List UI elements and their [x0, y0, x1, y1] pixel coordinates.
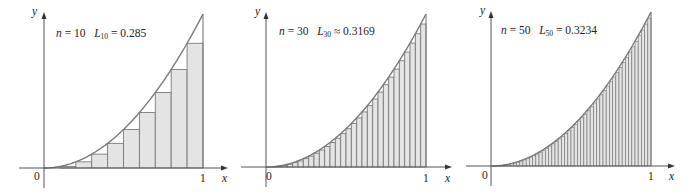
riemann-rect — [619, 67, 622, 166]
panel-1-L-sub: 10 — [101, 32, 109, 41]
panel-3-L-value: 0.3234 — [565, 24, 597, 36]
riemann-rect — [394, 69, 399, 167]
riemann-rect — [171, 69, 187, 168]
riemann-rect — [632, 47, 635, 166]
riemann-rect — [124, 130, 140, 169]
panel-3-n-value: 50 — [519, 24, 531, 36]
panel-3-L-sub: 50 — [546, 29, 554, 38]
riemann-rect — [622, 62, 625, 166]
riemann-rect — [293, 163, 298, 167]
riemann-rect — [616, 72, 619, 166]
panel-1-tick-0: 0 — [34, 170, 40, 182]
riemann-rect — [309, 156, 314, 167]
riemann-rect — [410, 43, 415, 167]
riemann-rect — [187, 43, 203, 168]
riemann-rect — [383, 85, 388, 167]
panel-2-L-value: 0.3169 — [343, 25, 375, 37]
riemann-rect — [539, 152, 542, 166]
riemann-rect — [625, 57, 628, 166]
x-axis-arrow-icon — [668, 164, 675, 169]
panel-1-L-value: 0.285 — [120, 27, 146, 39]
riemann-rect — [421, 24, 426, 167]
riemann-rect — [341, 134, 346, 167]
riemann-rect — [600, 95, 603, 166]
y-axis-arrow-icon — [42, 12, 47, 19]
riemann-rect — [533, 156, 536, 166]
riemann-rect — [561, 136, 564, 166]
panel-2-tick-0: 0 — [266, 170, 272, 182]
panel-3-x-label: x — [669, 170, 674, 182]
riemann-rect — [520, 161, 523, 166]
panel-1-x-label: x — [222, 172, 227, 184]
riemann-rect — [373, 99, 378, 167]
riemann-rect — [351, 123, 356, 167]
riemann-rect — [330, 143, 335, 167]
riemann-rect — [303, 159, 308, 167]
riemann-rect — [108, 143, 124, 168]
riemann-rect — [609, 82, 612, 166]
panel-3-tick-1: 1 — [648, 170, 654, 182]
riemann-rect — [526, 159, 529, 166]
riemann-rect — [346, 129, 351, 167]
panel-2-L-sub: 30 — [324, 30, 332, 39]
y-axis-arrow-icon — [264, 12, 269, 19]
panel-3-relation: = — [556, 24, 563, 36]
riemann-rect — [552, 144, 555, 166]
y-axis-arrow-icon — [489, 11, 494, 18]
riemann-rect — [597, 99, 600, 166]
riemann-rect — [565, 133, 568, 166]
riemann-rect — [577, 121, 580, 166]
riemann-rect — [545, 148, 548, 166]
riemann-rect — [367, 106, 372, 167]
riemann-rect — [549, 146, 552, 166]
riemann-rect — [638, 36, 641, 166]
riemann-rect — [571, 128, 574, 167]
riemann-rect — [536, 154, 539, 166]
panel-2-tick-1: 1 — [423, 172, 429, 184]
panel-1-tick-1: 1 — [200, 172, 206, 184]
riemann-rect — [378, 92, 383, 167]
riemann-rect — [590, 107, 593, 166]
riemann-rect — [629, 52, 632, 166]
riemann-rect — [584, 114, 587, 166]
riemann-rect — [139, 113, 155, 168]
riemann-rect — [641, 30, 644, 166]
riemann-rect — [613, 77, 616, 166]
riemann-rect — [155, 93, 171, 168]
riemann-rect — [335, 138, 340, 167]
panel-1-annotation: n = 10 L10 = 0.285 — [56, 27, 146, 41]
riemann-rect — [574, 124, 577, 166]
panel-2-x-label: x — [445, 172, 450, 184]
panel-3-annotation: n = 50 L50 = 0.3234 — [501, 24, 597, 38]
riemann-rect — [603, 91, 606, 166]
riemann-rect — [319, 150, 324, 167]
riemann-rect — [568, 131, 571, 166]
riemann-rect — [405, 52, 410, 167]
panel-1-y-label: y — [32, 5, 37, 17]
riemann-rect — [389, 77, 394, 167]
riemann-rect — [587, 111, 590, 166]
panel-2-y-label: y — [255, 5, 260, 17]
panel-1-relation: = — [111, 27, 118, 39]
riemann-rect — [558, 139, 561, 166]
panel-2-annotation: n = 30 L30 ≈ 0.3169 — [279, 25, 375, 39]
panel-3-y-label: y — [480, 4, 485, 16]
panel-1-n-value: 10 — [74, 27, 86, 39]
riemann-rect — [325, 146, 330, 167]
riemann-rect — [523, 160, 526, 166]
riemann-sum-figure: n = 10 L10 = 0.285 y x 0 1 n = 30 L30 ≈ … — [0, 0, 692, 195]
riemann-rect — [314, 153, 319, 167]
riemann-rect — [645, 24, 648, 166]
riemann-rect — [415, 34, 420, 167]
riemann-rect — [517, 162, 520, 166]
riemann-rect — [362, 112, 367, 167]
panel-2-relation: ≈ — [334, 25, 340, 37]
riemann-rect — [635, 41, 638, 166]
riemann-rect — [542, 150, 545, 166]
riemann-rect — [529, 157, 532, 166]
panel-3-tick-0: 0 — [482, 169, 488, 181]
riemann-rect — [76, 162, 92, 168]
riemann-rect — [581, 118, 584, 166]
panel-2-n-value: 30 — [297, 25, 309, 37]
riemann-rect — [593, 103, 596, 166]
